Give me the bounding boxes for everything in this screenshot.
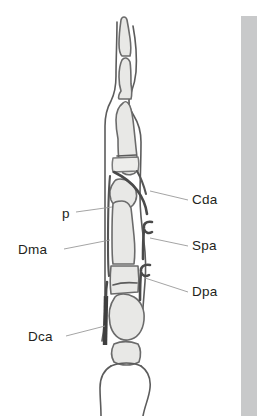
- label-dma: Dma: [18, 242, 47, 257]
- leader-dca: [66, 326, 105, 336]
- metatarsal-right-contour: [141, 366, 150, 416]
- distal-sesamoid-body: [112, 342, 141, 365]
- distal-phalanx-body: [119, 58, 132, 99]
- leader-spa: [150, 238, 188, 246]
- leader-dpa: [145, 278, 188, 292]
- ungual-phalanx: [119, 17, 131, 56]
- anatomical-drawing: Cda Spa Dpa p Dma Dca: [0, 0, 267, 416]
- metatarsal-shaft: [100, 363, 150, 416]
- ungual-phalanx-body: [119, 17, 131, 56]
- metatarsal-head: [109, 294, 144, 340]
- label-spa: Spa: [192, 238, 217, 253]
- distal-phalanx: [119, 58, 132, 99]
- leader-p: [76, 207, 112, 212]
- label-p: p: [62, 206, 70, 221]
- dca-tendon-upper: [106, 282, 107, 296]
- leader-dma: [64, 240, 110, 249]
- dca-deep-tendon: [105, 296, 106, 345]
- basal-block-body: [110, 266, 139, 294]
- distal-sesamoid-block: [112, 342, 141, 365]
- proximal-phalanx-body: [112, 201, 135, 264]
- label-dpa: Dpa: [192, 284, 218, 299]
- joint-block-body: [112, 157, 139, 172]
- label-cda: Cda: [192, 192, 218, 207]
- dma-dorsal-strap: [108, 176, 110, 276]
- metatarsal-head-body: [109, 294, 144, 340]
- figure-root: Cda Spa Dpa p Dma Dca: [0, 0, 267, 416]
- interphalangeal-joint-block: [112, 157, 139, 172]
- basal-phalanx-block: [110, 266, 139, 294]
- metatarsal-left-contour: [100, 366, 111, 416]
- leader-cda: [150, 191, 188, 200]
- proximal-phalanx: [112, 201, 135, 264]
- label-dca: Dca: [28, 329, 53, 344]
- middle-phalanx-distal-line: [117, 155, 136, 156]
